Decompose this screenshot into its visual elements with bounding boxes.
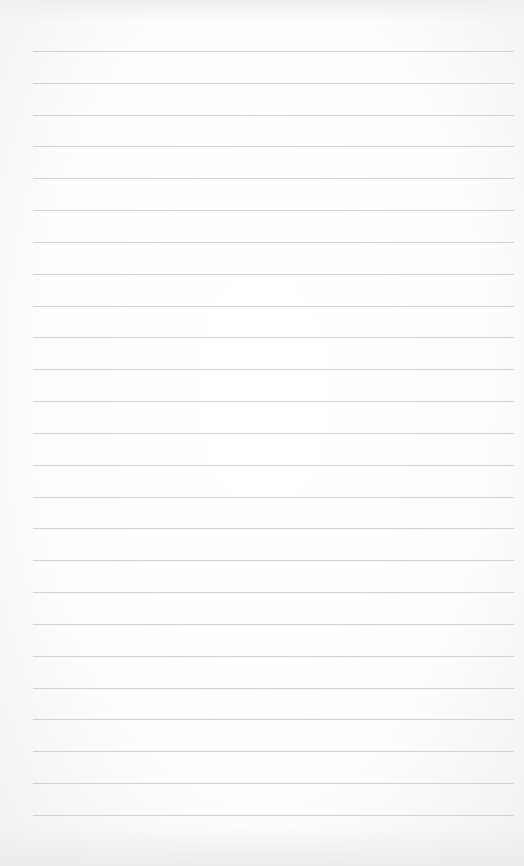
ruled-line <box>33 815 514 816</box>
ruled-line <box>33 783 514 784</box>
ruled-line <box>33 51 514 52</box>
ruled-line <box>33 624 514 625</box>
ruled-line <box>33 306 514 307</box>
ruled-line <box>33 274 514 275</box>
ruled-line <box>33 719 514 720</box>
ruled-line <box>33 115 514 116</box>
ruled-line <box>33 433 514 434</box>
ruled-line <box>33 497 514 498</box>
ruled-line <box>33 560 514 561</box>
paper-bottom-shadow <box>0 826 524 866</box>
lined-paper-sheet <box>0 0 524 866</box>
ruled-line <box>33 210 514 211</box>
ruled-line <box>33 656 514 657</box>
ruled-line <box>33 751 514 752</box>
ruled-line <box>33 465 514 466</box>
ruled-line <box>33 242 514 243</box>
ruled-line <box>33 146 514 147</box>
ruled-line <box>33 401 514 402</box>
paper-top-shadow <box>0 0 524 22</box>
ruled-line <box>33 369 514 370</box>
ruled-line <box>33 337 514 338</box>
ruled-line <box>33 528 514 529</box>
ruled-line <box>33 592 514 593</box>
ruled-line <box>33 688 514 689</box>
ruled-line <box>33 178 514 179</box>
ruled-line <box>33 83 514 84</box>
